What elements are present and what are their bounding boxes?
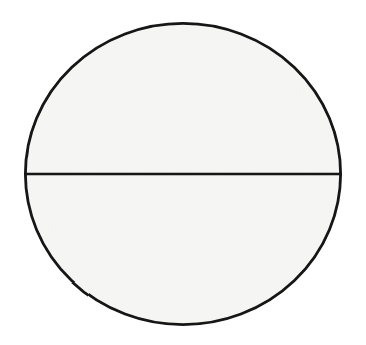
circle-with-diameter-figure — [0, 0, 366, 345]
figure-canvas — [0, 0, 366, 345]
